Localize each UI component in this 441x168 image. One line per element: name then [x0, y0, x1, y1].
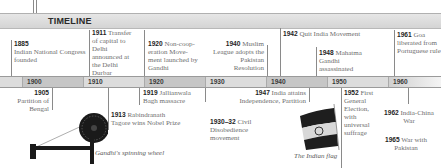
- decade-1950: 1950: [327, 77, 388, 87]
- event-1947: 1947 India attains Independence, Partiti…: [225, 89, 306, 105]
- top-connector-line: [36, 0, 37, 13]
- event-line: [267, 45, 268, 76]
- event-1940: 1940 Muslim League adopts the Pakistan R…: [210, 40, 264, 72]
- decade-pre: [0, 77, 22, 87]
- decade-1960: 1960: [388, 77, 441, 87]
- spinning-wheel-caption: Gandhi's spinning wheel: [95, 149, 164, 157]
- event-1885: 1885 Indian National Congress founded: [14, 40, 89, 64]
- event-1919: 1919 Jallianwala Bagh massacre: [143, 89, 199, 105]
- timeline-header: TIMELINE: [0, 13, 441, 29]
- event-line: [52, 88, 53, 110]
- spinning-wheel-icon: [26, 108, 108, 166]
- event-line: [408, 88, 409, 104]
- page-title: TIMELINE: [48, 14, 92, 28]
- event-1952: 1952 First General Election, with univer…: [344, 89, 376, 137]
- decade-1940: 1940: [266, 77, 327, 87]
- decade-1920: 1920: [144, 77, 205, 87]
- event-1913: 1913 Rabindranath Tagore wins Nobel Priz…: [111, 111, 186, 127]
- event-line: [11, 40, 12, 76]
- decade-bar: 1900 1910 1920 1930 1940 1950 1960: [0, 76, 441, 88]
- event-line: [89, 30, 90, 76]
- decade-1900: 1900: [22, 77, 83, 87]
- top-connector-line: [33, 0, 34, 13]
- event-1920: 1920 Non-coop-eration Move-ment launched…: [148, 40, 200, 72]
- event-1961: 1961 Goa liberated from Portuguese rule: [397, 31, 441, 55]
- decade-1910: 1910: [83, 77, 144, 87]
- event-1948: 1948 Mahatma Gandhi assassinated: [319, 49, 369, 73]
- event-1911: 1911 Transfer of capital to Delhi announ…: [92, 29, 138, 77]
- event-1930-32: 1930–32 Civil Disobedience movement: [210, 118, 258, 142]
- event-line: [205, 88, 206, 102]
- indian-flag-icon: [296, 104, 346, 150]
- event-line: [139, 88, 140, 105]
- event-line: [144, 30, 145, 76]
- event-line: [309, 88, 310, 102]
- decade-1930: 1930: [205, 77, 266, 87]
- event-1962: 1962 India-China War: [384, 109, 434, 125]
- event-1965: 1965 War with Pakistan: [376, 136, 436, 152]
- event-line: [316, 47, 317, 76]
- event-1942: 1942 Quit India Movement: [283, 30, 393, 38]
- event-line: [108, 88, 109, 130]
- event-line: [394, 30, 395, 76]
- event-line: [280, 28, 281, 76]
- indian-flag-caption: The Indian flag: [294, 152, 337, 160]
